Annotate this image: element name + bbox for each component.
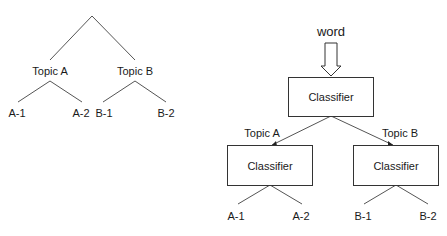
- root-classifier-box: Classifier: [288, 77, 374, 117]
- child-classifier-b-box: Classifier: [353, 145, 439, 186]
- child-classifier-a-box: Classifier: [227, 145, 313, 186]
- right-leaf-b2: B-2: [419, 210, 436, 222]
- branch-topic-b-label: Topic B: [382, 127, 418, 139]
- left-leaf-b1: B-1: [95, 107, 112, 119]
- left-leaf-b2: B-2: [157, 107, 174, 119]
- right-leaf-a2: A-2: [292, 210, 309, 222]
- left-topic-a-label: Topic A: [32, 65, 67, 77]
- diagram-lines: [0, 0, 447, 236]
- input-word-label: word: [317, 26, 345, 38]
- left-leaf-a2: A-2: [72, 107, 89, 119]
- left-leaf-a1: A-1: [8, 107, 25, 119]
- right-leaf-a1: A-1: [227, 210, 244, 222]
- left-topic-b-label: Topic B: [117, 65, 153, 77]
- right-leaf-b1: B-1: [354, 210, 371, 222]
- branch-topic-a-label: Topic A: [244, 127, 279, 139]
